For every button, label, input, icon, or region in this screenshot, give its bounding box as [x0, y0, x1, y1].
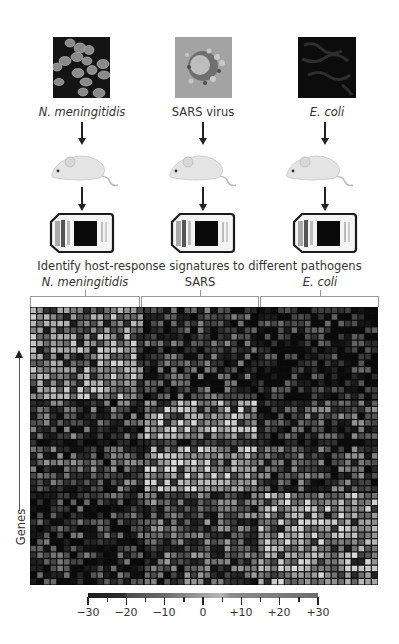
colorbar-label: +30 [303, 606, 333, 619]
figure-title: Identify host-response signatures to dif… [0, 259, 399, 273]
expression-heatmap [30, 307, 378, 585]
group-bracket-n-meningitidis [30, 296, 140, 307]
group-label-sars: SARS [140, 275, 260, 289]
microarray-chip-icon [170, 212, 236, 254]
arrow-down-icon [324, 122, 326, 139]
colorbar-label: −30 [73, 606, 103, 619]
arrow-down-icon [81, 122, 83, 139]
arrow-down-icon [202, 122, 204, 139]
arrow-down-icon [81, 187, 83, 205]
colorbar-tick-mark [222, 597, 223, 602]
mouse-icon [283, 150, 358, 188]
pathogen-label-n-meningitidis: N. meningitidis [22, 105, 142, 119]
colorbar-tick-mark [241, 597, 242, 605]
colorbar-tick-mark [202, 597, 203, 605]
colorbar-label: +20 [264, 606, 294, 619]
colorbar-label: +10 [226, 606, 256, 619]
arrow-down-icon [324, 187, 326, 205]
colorbar-tick-mark [87, 597, 88, 605]
group-label-e-coli: E. coli [260, 275, 380, 289]
arrow-down-icon [202, 187, 204, 205]
mouse-icon [48, 150, 123, 188]
colorbar-tick-mark [183, 597, 184, 602]
colorbar-label: 0 [188, 606, 218, 619]
colorbar-tick-mark [164, 597, 165, 605]
group-label-n-meningitidis: N. meningitidis [25, 275, 145, 289]
sars-virus-image [175, 37, 232, 98]
colorbar-tick-mark [107, 597, 108, 602]
colorbar-tick-mark [145, 597, 146, 602]
colorbar-label: −20 [111, 606, 141, 619]
pathogen-label-sars: SARS virus [143, 105, 263, 119]
genes-axis-label: Genes [14, 507, 28, 547]
microarray-chip-icon [292, 212, 358, 254]
pathogen-label-e-coli: E. coli [267, 105, 387, 119]
colorbar-tick-mark [126, 597, 127, 605]
microarray-chip-icon [49, 212, 115, 254]
colorbar-tick-mark [317, 597, 318, 605]
group-bracket-sars [141, 296, 259, 307]
e-coli-image [298, 37, 356, 98]
n-meningitidis-image [53, 37, 110, 98]
mouse-icon [166, 150, 241, 188]
colorbar-label: −10 [149, 606, 179, 619]
colorbar-tick-mark [260, 597, 261, 602]
colorbar-tick-mark [279, 597, 280, 605]
genes-axis-arrow-icon [19, 358, 20, 511]
colorbar-tick-mark [298, 597, 299, 602]
group-bracket-e-coli [260, 296, 379, 307]
